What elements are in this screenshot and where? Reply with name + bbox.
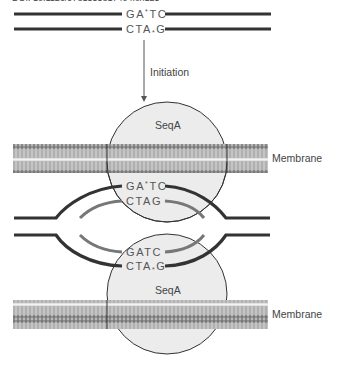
top-lower-sequence: CTA*G [126, 23, 166, 36]
seqa-label-lower: SeqA [155, 284, 181, 296]
membrane-label-upper: Membrane [272, 152, 322, 164]
initiation-arrow: Initiation [141, 40, 189, 102]
top-dna-duplex: GA*TC CTA*G [14, 8, 271, 36]
arrowhead-icon [141, 96, 147, 102]
new-strand-top [80, 201, 122, 218]
initiation-label: Initiation [150, 66, 189, 78]
seqa-label-upper: SeqA [155, 119, 181, 131]
new-strand-bottom [80, 235, 122, 252]
seqa-membrane-diagram: GA*TC CTA*G Initiation SeqA Membrane Seq… [0, 0, 337, 366]
membrane-label-lower: Membrane [272, 308, 322, 320]
bubble-new-bottom-sequence: GATC [126, 246, 162, 258]
top-upper-sequence: GA*TC [126, 8, 167, 20]
membrane-lower: Membrane [13, 300, 322, 329]
bubble-old-bottom-sequence: CTA*G [126, 260, 166, 273]
bubble-new-top-sequence: CTAG [126, 195, 162, 207]
